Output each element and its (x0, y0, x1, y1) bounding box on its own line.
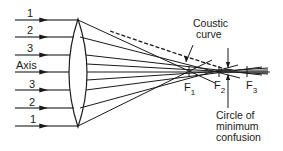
ray-label-2-top: 2 (27, 24, 33, 36)
axis-label: Axis (16, 59, 37, 71)
spherical-aberration-diagram: 1 2 3 Axis 3 2 1 F1 F2 F3 Coustic curve (0, 0, 283, 151)
focus-label-f2: F2 (214, 79, 226, 95)
ray-label-1-bottom: 1 (30, 113, 36, 125)
ray-labels: 1 2 3 Axis 3 2 1 (16, 7, 37, 125)
circle-of-minimum-confusion-label: Circle of minimum confusion (216, 109, 261, 143)
ray-label-3-bottom: 3 (29, 78, 35, 90)
svg-text:curve: curve (196, 28, 222, 40)
biconvex-lens (69, 19, 87, 127)
refracted-ray-1-top (78, 20, 215, 83)
focus-label-f1: F1 (184, 81, 196, 97)
caustic-curve-label: Coustic curve (193, 17, 228, 40)
focus-labels: F1 F2 F3 (184, 79, 258, 97)
ray-label-2-bottom: 2 (29, 96, 35, 108)
svg-text:confusion: confusion (216, 131, 261, 143)
ray-label-1-top: 1 (27, 7, 33, 19)
ray-label-3-top: 3 (27, 42, 33, 54)
focus-label-f3: F3 (246, 79, 258, 95)
